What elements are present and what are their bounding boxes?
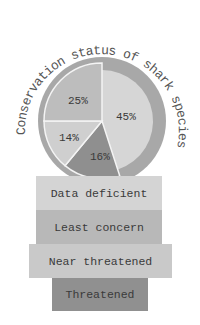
legend-threatened: Threatened [52,278,148,311]
legend-label: Threatened [65,288,134,301]
slice-label-25: 25% [68,95,88,107]
slice-label-16: 16% [90,151,110,163]
slice-label-14: 14% [59,132,79,144]
legend-near-threatened: Near threatened [29,244,172,278]
legend-label: Least concern [54,221,144,234]
legend-data-deficient: Data deficient [36,176,162,210]
legend-label: Near threatened [49,255,153,268]
slice-label-45: 45% [116,111,136,123]
pie-chart: 45% 16% 14% 25% Conservation status of s… [0,0,200,180]
legend-label: Data deficient [51,187,148,200]
legend-least-concern: Least concern [36,210,162,244]
